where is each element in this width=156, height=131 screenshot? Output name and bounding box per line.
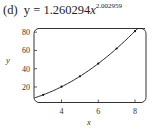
y-tick-label: 60: [22, 46, 30, 55]
x-axis-label: x: [86, 117, 91, 127]
y-tick-label: 80: [22, 28, 30, 37]
x-axis-ticks: 468: [60, 100, 137, 116]
x-tick-label: 8: [133, 107, 137, 116]
data-point: [60, 86, 62, 88]
y-axis-label: y: [5, 55, 10, 65]
x-tick-label: 4: [60, 107, 64, 116]
data-point: [116, 47, 118, 49]
data-point: [97, 62, 99, 64]
x-tick-label: 6: [96, 107, 100, 116]
y-tick-label: 40: [22, 65, 30, 74]
y-tick-label: 20: [22, 83, 30, 92]
y-axis-ticks: 20406080: [22, 28, 37, 92]
fitted-curve: [34, 29, 145, 98]
data-points: [42, 30, 136, 96]
data-point: [79, 75, 81, 77]
data-point: [42, 94, 44, 96]
chart-plot: 468 20406080 x y: [0, 0, 156, 131]
data-point: [134, 30, 136, 32]
